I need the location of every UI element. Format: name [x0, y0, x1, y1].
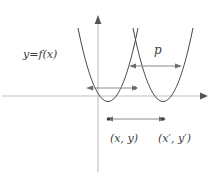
shift-distance-label: p	[154, 44, 162, 56]
shift-arrow-top-right-arrowhead-icon	[175, 63, 182, 68]
vertex-translated-point-marker	[161, 117, 164, 120]
figure-canvas	[0, 0, 217, 178]
parabola-translated-curve	[133, 28, 193, 102]
point-translated-label: (x′, y′)	[158, 133, 191, 144]
shift-arrow-top-left-arrowhead-icon	[129, 63, 136, 68]
y-axis-arrowhead-icon	[95, 15, 102, 24]
parabola-translation-figure: y=f(x) p (x, y) (x′, y′)	[0, 0, 217, 178]
x-axis-arrowhead-icon	[200, 93, 208, 100]
vertex-original-point-marker	[107, 117, 110, 120]
point-original-label: (x, y)	[110, 133, 138, 144]
x-axis	[2, 93, 208, 100]
shift-arrow-top	[129, 63, 182, 68]
function-label: y=f(x)	[23, 49, 57, 60]
parabola-original-curve	[78, 28, 138, 102]
shift-arrow-vertices	[106, 116, 166, 121]
shift-arrow-axis-left-arrowhead-icon	[86, 85, 93, 90]
